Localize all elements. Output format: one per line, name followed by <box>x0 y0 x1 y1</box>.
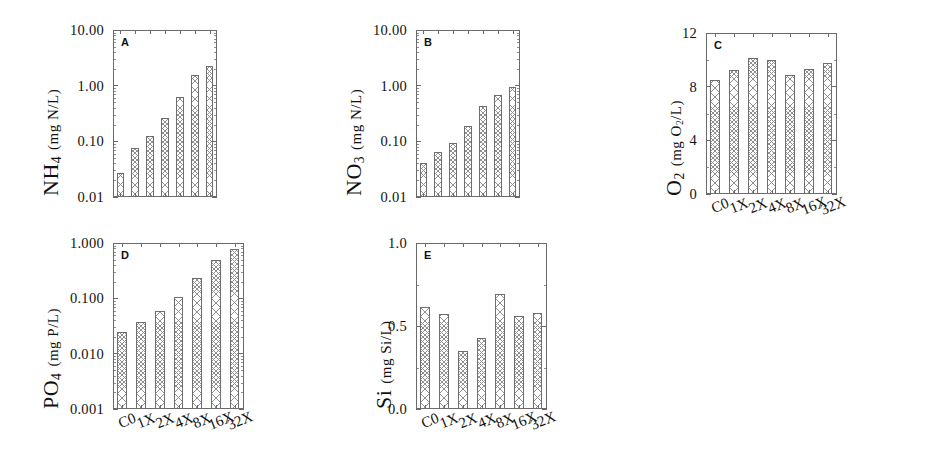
y-axis-minor-tick <box>544 368 547 369</box>
x-axis-tick-top <box>500 243 501 247</box>
bar <box>533 313 543 409</box>
y-axis-major-tick-right <box>542 326 547 327</box>
x-axis-tick-top <box>463 243 464 247</box>
y-axis-title-unit: (mg Si/L) <box>378 320 394 383</box>
x-axis-tick <box>519 405 520 409</box>
y-axis-major-tick <box>416 243 421 244</box>
x-axis-tick <box>444 405 445 409</box>
y-axis-minor-tick <box>544 285 547 286</box>
x-axis-tick <box>482 405 483 409</box>
x-axis-tick <box>538 405 539 409</box>
y-axis-tick-label: 1.0 <box>0 235 407 252</box>
x-axis-tick-top <box>538 243 539 247</box>
y-axis-tick-label: 0.5 <box>0 318 407 335</box>
panel-letter-e: E <box>424 249 431 261</box>
x-axis-tick <box>500 405 501 409</box>
bar <box>477 338 487 409</box>
y-axis-minor-tick <box>416 368 419 369</box>
bar <box>439 314 449 409</box>
x-axis-tick-top <box>519 243 520 247</box>
bar <box>495 294 505 409</box>
y-axis-minor-tick <box>416 285 419 286</box>
y-axis-tick-label: 0.0 <box>0 401 407 418</box>
x-axis-tick <box>425 405 426 409</box>
y-axis-title-e: Si (mg Si/L) <box>371 320 397 409</box>
x-axis-tick-top <box>482 243 483 247</box>
bar <box>458 351 468 409</box>
figure-panel-grid: A0.010.101.0010.00NH4 (mg N/L)B0.010.101… <box>0 0 937 452</box>
x-axis-tick-top <box>444 243 445 247</box>
x-axis-tick <box>463 405 464 409</box>
bar <box>514 316 524 409</box>
x-axis-category-label: 2X <box>456 410 479 433</box>
y-axis-title-main: Si <box>371 390 396 409</box>
chart-panel-e: E0.00.51.0Si (mg Si/L)C01X2X4X8X16X32X <box>0 0 937 452</box>
bar <box>420 307 430 409</box>
x-axis-tick-top <box>425 243 426 247</box>
y-axis-major-tick-right <box>542 243 547 244</box>
